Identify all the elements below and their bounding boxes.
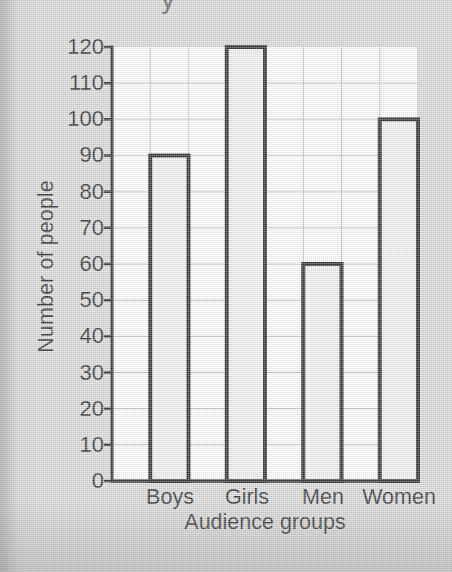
bar-girls: [227, 47, 265, 481]
bar-chart: Number of people 120 110 100 90 80 70 60…: [0, 0, 452, 572]
x-axis-title: Audience groups: [112, 510, 418, 535]
x-tick-label-men: Men: [287, 485, 359, 510]
bar-men: [303, 264, 341, 481]
bar-boys: [150, 156, 188, 482]
x-tick-label-women: Women: [352, 485, 446, 510]
x-tick-label-girls: Girls: [207, 485, 287, 510]
x-tick-label-boys: Boys: [130, 485, 210, 510]
bar-women: [380, 119, 418, 481]
